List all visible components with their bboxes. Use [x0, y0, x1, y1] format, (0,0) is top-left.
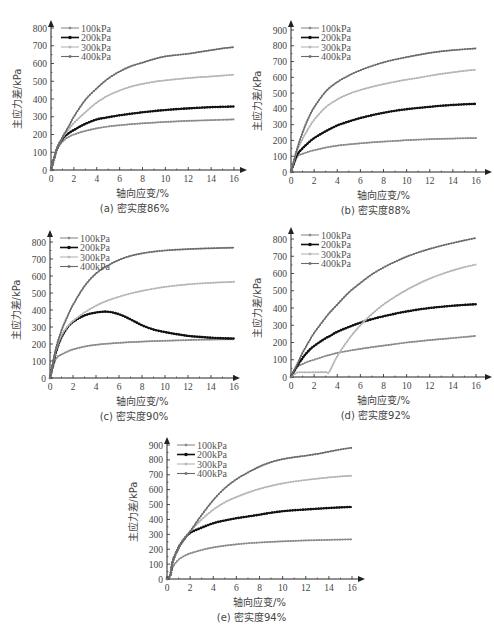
- x-tick-label: 16: [471, 176, 481, 186]
- legend-item-400kPa: 400kPa: [177, 468, 228, 479]
- x-tick-label: 16: [347, 583, 357, 593]
- x-tick-label: 6: [117, 382, 122, 392]
- chart-svg-b: 0246810121416010020030040050060070080090…: [247, 0, 494, 215]
- legend-item-400kPa: 400kPa: [301, 51, 352, 62]
- y-tick-label: 500: [32, 289, 47, 299]
- x-axis-title: 轴向应变/%: [116, 187, 169, 199]
- y-tick-label: 700: [273, 57, 288, 67]
- series-200kPa: [50, 105, 235, 171]
- y-tick-label: 400: [273, 104, 288, 114]
- x-axis-title: 轴向应变/%: [357, 189, 410, 201]
- axes: 0246810121416010020030040050060070080090…: [273, 20, 492, 186]
- y-axis-title: 主应力差/kPa: [251, 278, 263, 339]
- y-tick-label: 200: [273, 338, 288, 348]
- chart-caption: (d) 密实度92%: [341, 409, 411, 421]
- y-tick-label: 300: [33, 112, 48, 122]
- legend: 100kPa200kPa300kPa400kPa: [61, 23, 112, 63]
- y-tick-label: 700: [32, 255, 47, 265]
- x-tick-label: 6: [234, 583, 239, 593]
- y-tick-label: 600: [273, 73, 288, 83]
- y-tick-label: 600: [32, 272, 47, 282]
- y-axis-title: 主应力差/kPa: [10, 280, 22, 341]
- x-tick-label: 2: [72, 174, 77, 184]
- chart-panel-e: 0246810121416010020030040050060070080090…: [120, 425, 380, 643]
- y-axis-arrow-icon: [48, 20, 54, 27]
- series-400kPa: [166, 447, 352, 580]
- y-tick-label: 300: [32, 323, 47, 333]
- axes: 02468101214160100200300400500600700800: [33, 20, 247, 184]
- y-axis-arrow-icon: [288, 20, 294, 27]
- y-tick-label: 700: [33, 41, 48, 51]
- x-tick-label: 14: [448, 176, 458, 186]
- x-tick-label: 10: [402, 176, 412, 186]
- x-tick-label: 16: [471, 381, 481, 391]
- y-axis-arrow-icon: [47, 230, 53, 237]
- x-tick-label: 12: [184, 174, 194, 184]
- y-axis-title: 主应力差/kPa: [251, 71, 263, 132]
- x-tick-label: 2: [312, 176, 317, 186]
- series-400kPa: [50, 46, 234, 170]
- y-tick-label: 400: [33, 95, 48, 105]
- y-tick-label: 600: [149, 485, 164, 495]
- chart-caption: (c) 密实度90%: [100, 410, 169, 422]
- legend-item-400kPa: 400kPa: [61, 51, 112, 62]
- x-tick-label: 2: [188, 583, 193, 593]
- legend-label: 400kPa: [321, 258, 352, 269]
- x-tick-label: 14: [324, 583, 334, 593]
- x-tick-label: 10: [402, 381, 412, 391]
- y-tick-label: 800: [32, 238, 47, 248]
- y-tick-label: 400: [149, 515, 164, 525]
- y-tick-label: 0: [42, 166, 47, 176]
- y-tick-label: 900: [149, 441, 164, 451]
- chart-panel-d: 02468101214160100200300400500600700800轴向…: [247, 215, 494, 425]
- y-tick-label: 800: [273, 41, 288, 51]
- y-tick-label: 0: [158, 575, 163, 585]
- x-tick-label: 0: [49, 174, 54, 184]
- x-tick-label: 12: [301, 583, 311, 593]
- x-tick-label: 0: [289, 381, 294, 391]
- x-tick-label: 6: [358, 381, 363, 391]
- legend-item-400kPa: 400kPa: [60, 261, 111, 272]
- x-axis-title: 轴向应变/%: [116, 395, 169, 407]
- y-tick-label: 800: [149, 455, 164, 465]
- axes: 02468101214160100200300400500600700800: [273, 227, 492, 391]
- y-tick-label: 900: [273, 26, 288, 36]
- series-400kPa: [290, 237, 476, 377]
- series-300kPa: [290, 69, 476, 173]
- y-tick-label: 400: [32, 306, 47, 316]
- y-tick-label: 800: [273, 235, 288, 245]
- x-tick-label: 4: [335, 176, 340, 186]
- chart-svg-c: 02468101214160100200300400500600700800轴向…: [0, 215, 247, 425]
- y-axis-title: 主应力差/kPa: [127, 482, 139, 543]
- legend-label: 400kPa: [197, 468, 228, 479]
- series-400kPa: [290, 48, 476, 173]
- x-tick-label: 2: [71, 382, 76, 392]
- y-tick-label: 0: [41, 374, 46, 384]
- y-tick-label: 100: [33, 148, 48, 158]
- legend: 100kPa200kPa300kPa400kPa: [177, 440, 228, 480]
- y-tick-label: 600: [33, 59, 48, 69]
- x-tick-label: 12: [183, 382, 193, 392]
- series-100kPa: [166, 539, 352, 580]
- x-axis-arrow-icon: [485, 169, 492, 175]
- chart-panel-b: 0246810121416010020030040050060070080090…: [247, 0, 494, 215]
- x-tick-label: 14: [206, 174, 216, 184]
- x-tick-label: 4: [211, 583, 216, 593]
- x-tick-label: 8: [140, 174, 145, 184]
- y-tick-label: 500: [273, 89, 288, 99]
- y-tick-label: 500: [273, 286, 288, 296]
- series-100kPa: [49, 338, 234, 379]
- series-300kPa: [290, 264, 476, 378]
- y-axis-title: 主应力差/kPa: [11, 69, 23, 130]
- chart-svg-d: 02468101214160100200300400500600700800轴向…: [247, 215, 494, 425]
- chart-svg-a: 02468101214160100200300400500600700800轴向…: [0, 0, 247, 215]
- y-tick-label: 500: [33, 77, 48, 87]
- y-tick-label: 700: [273, 252, 288, 262]
- x-tick-label: 8: [381, 381, 386, 391]
- legend: 100kPa200kPa300kPa400kPa: [301, 230, 352, 270]
- y-tick-label: 0: [282, 168, 287, 178]
- y-tick-label: 500: [149, 500, 164, 510]
- legend: 100kPa200kPa300kPa400kPa: [60, 233, 111, 273]
- x-tick-label: 10: [161, 174, 171, 184]
- x-tick-label: 0: [48, 382, 53, 392]
